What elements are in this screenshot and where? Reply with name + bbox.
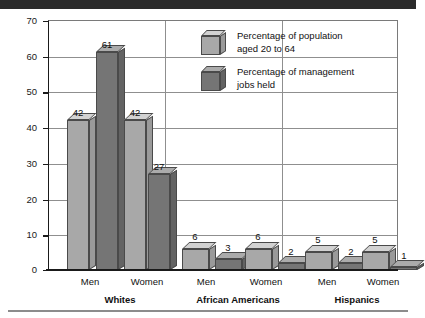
y-tick-label-30: 30 — [11, 159, 37, 169]
bar-value-african-americans-women-management: 2 — [276, 247, 306, 257]
group-label-african-americans: African Americans — [178, 294, 298, 305]
bar-value-african-americans-men-population: 6 — [180, 232, 210, 242]
y-tick-label-10: 10 — [11, 230, 37, 240]
bar-african-americans-men-population — [182, 249, 209, 270]
y-tick-30 — [43, 164, 49, 165]
legend-swatch-population — [201, 31, 227, 55]
chart-legend: Percentage of population aged 20 to 64 P… — [201, 27, 391, 99]
x-label-whites-men: Men — [60, 276, 120, 287]
legend-label-management: Percentage of management jobs held — [237, 66, 354, 91]
x-label-african-americans-men: Men — [176, 276, 236, 287]
y-tick-label-40: 40 — [11, 123, 37, 133]
bar-whites-women-management — [148, 174, 170, 270]
y-tick-10 — [43, 235, 49, 236]
y-tick-label-20: 20 — [11, 195, 37, 205]
bar-front-face — [124, 120, 146, 270]
bar-value-whites-women-management: 27 — [144, 162, 174, 172]
y-tick-label-70: 70 — [11, 16, 37, 26]
y-tick-label-50: 50 — [11, 87, 37, 97]
bar-value-whites-men-management: 61 — [92, 40, 122, 50]
x-label-whites-women: Women — [117, 276, 177, 287]
bar-front-face — [67, 120, 89, 270]
bar-value-african-americans-men-management: 3 — [213, 243, 243, 253]
x-label-hispanics-men: Men — [297, 276, 357, 287]
swatch-front-face — [201, 72, 220, 91]
x-label-hispanics-women: Women — [353, 276, 413, 287]
bar-hispanics-men-population — [305, 252, 332, 270]
bar-whites-men-population — [67, 120, 89, 270]
bar-value-african-americans-women-population: 6 — [243, 232, 273, 242]
plot-area: 70 60 50 40 30 20 10 0 42 — [48, 20, 398, 270]
group-label-hispanics: Hispanics — [297, 294, 417, 305]
bar-african-americans-women-population — [245, 249, 272, 270]
group-label-whites: Whites — [60, 294, 180, 305]
bar-front-face — [362, 252, 389, 270]
y-tick-70 — [43, 21, 49, 22]
legend-item-management: Percentage of management jobs held — [201, 63, 391, 99]
bar-whites-men-management — [96, 52, 118, 270]
bar-value-hispanics-men-population: 5 — [303, 235, 333, 245]
bar-hispanics-women-population — [362, 252, 389, 270]
legend-item-population: Percentage of population aged 20 to 64 — [201, 27, 391, 63]
swatch-side-face — [220, 68, 226, 91]
bar-value-hispanics-women-population: 5 — [360, 235, 390, 245]
bar-side-face — [170, 170, 177, 270]
legend-label-population: Percentage of population aged 20 to 64 — [237, 30, 343, 55]
swatch-front-face — [201, 36, 220, 55]
gridline-70 — [49, 21, 397, 22]
bar-whites-women-population — [124, 120, 146, 270]
legend-swatch-management — [201, 67, 227, 91]
bar-front-face — [148, 174, 170, 270]
y-tick-40 — [43, 128, 49, 129]
x-label-african-americans-women: Women — [236, 276, 296, 287]
bar-value-whites-men-population: 42 — [63, 108, 93, 118]
bar-chart: Percent 70 60 50 40 30 20 10 0 — [0, 9, 416, 310]
bar-front-face — [182, 249, 209, 270]
y-tick-label-60: 60 — [11, 52, 37, 62]
bar-value-whites-women-population: 42 — [120, 108, 150, 118]
bar-front-face — [245, 249, 272, 270]
bottom-divider-rule — [8, 310, 408, 312]
y-tick-20 — [43, 200, 49, 201]
top-divider-rule — [0, 0, 416, 9]
bar-side-face — [89, 116, 96, 270]
bar-front-face — [96, 52, 118, 270]
y-tick-50 — [43, 92, 49, 93]
bar-front-face — [305, 252, 332, 270]
y-tick-60 — [43, 57, 49, 58]
y-tick-label-0: 0 — [11, 265, 37, 275]
bar-value-hispanics-women-management: 1 — [389, 251, 419, 261]
swatch-side-face — [220, 32, 226, 55]
x-axis-line — [46, 269, 398, 271]
